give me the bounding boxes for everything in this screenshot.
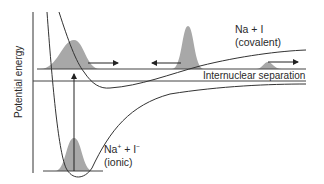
y-axis-label: Potential energy — [14, 46, 24, 118]
x-axis-label: Internuclear separation — [203, 71, 305, 81]
ionic-label-minus: − — [136, 143, 140, 150]
diagram-canvas — [0, 0, 324, 184]
ionic-sublabel: (ionic) — [104, 157, 133, 168]
covalent-label: Na + I — [235, 24, 263, 35]
covalent-sublabel: (covalent) — [235, 37, 281, 48]
wavepacket-dissociating — [256, 62, 282, 69]
ionic-label: Na+ + I− — [104, 144, 140, 155]
ionic-label-na: Na — [104, 143, 117, 155]
ionic-label-i: + I — [121, 143, 136, 155]
potential-energy-diagram: Potential energy Internuclear separation… — [0, 0, 324, 184]
